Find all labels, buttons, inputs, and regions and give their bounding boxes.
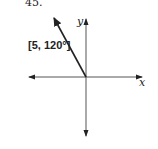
y-axis-label: y — [76, 15, 84, 28]
x-axis-label: x — [139, 76, 146, 89]
polar-vector-diagram: [5, 120°] y x — [0, 0, 158, 149]
vector-label: [5, 120°] — [28, 39, 71, 51]
